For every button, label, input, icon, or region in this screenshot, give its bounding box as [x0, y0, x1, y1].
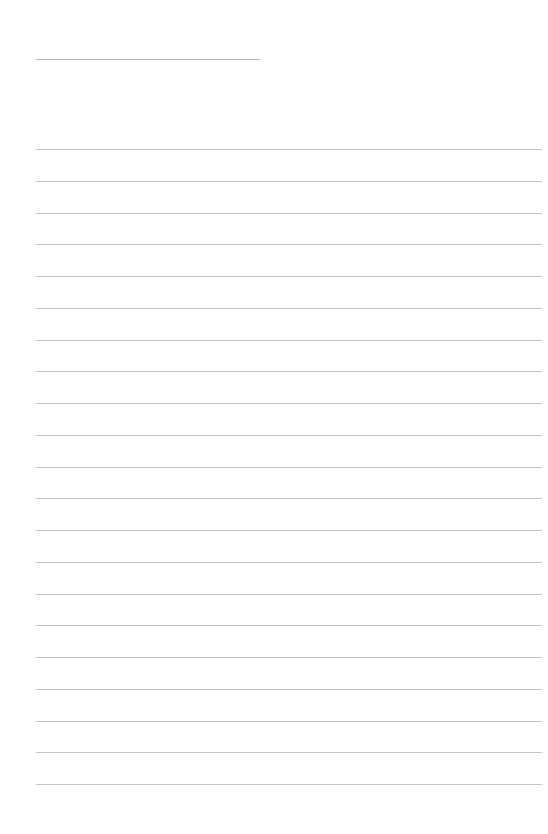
ruled-line — [36, 562, 542, 563]
ruled-line — [36, 149, 542, 150]
ruled-line — [36, 784, 542, 785]
ruled-line — [36, 721, 542, 722]
ruled-line — [36, 181, 542, 182]
ruled-line — [36, 498, 542, 499]
ruled-line — [36, 657, 542, 658]
ruled-line — [36, 340, 542, 341]
ruled-line — [36, 308, 542, 309]
ruled-line — [36, 625, 542, 626]
ruled-line — [36, 594, 542, 595]
ruled-line — [36, 276, 542, 277]
ruled-line — [36, 371, 542, 372]
ruled-line — [36, 752, 542, 753]
ruled-line — [36, 213, 542, 214]
ruled-line — [36, 403, 542, 404]
lined-paper-page — [0, 0, 548, 834]
ruled-line — [36, 530, 542, 531]
ruled-line — [36, 689, 542, 690]
ruled-line — [36, 467, 542, 468]
ruled-line — [36, 244, 542, 245]
ruled-line — [36, 435, 542, 436]
header-line — [36, 59, 260, 60]
